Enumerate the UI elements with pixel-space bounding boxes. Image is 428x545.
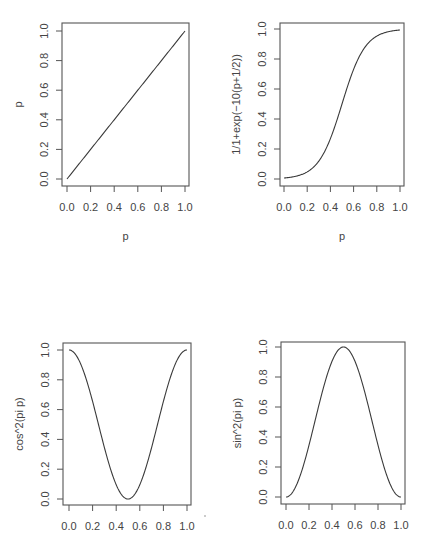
y-tick-label: 1.0: [256, 21, 268, 36]
plot-cos-squared: 0.00.20.40.60.81.00.00.20.40.60.81.0cos^…: [13, 342, 195, 532]
x-tick-label: 0.2: [85, 520, 100, 532]
x-tick-label: 0.8: [369, 201, 384, 213]
x-axis-title: p: [339, 230, 345, 242]
x-tick-label: 1.0: [393, 519, 408, 531]
plot-identity: 0.00.20.40.60.81.00.00.20.40.60.81.0pp: [12, 23, 193, 242]
data-line: [67, 31, 185, 179]
stray-dot: [204, 515, 206, 517]
y-tick-label: 0.6: [38, 83, 50, 98]
x-tick-label: 0.8: [156, 520, 171, 532]
x-tick-label: 0.8: [154, 201, 169, 213]
x-tick-label: 0.4: [109, 520, 124, 532]
x-tick-label: 0.6: [130, 201, 145, 213]
x-tick-label: 0.2: [83, 201, 98, 213]
y-tick-label: 0.8: [257, 369, 269, 384]
x-tick-label: 0.0: [59, 201, 74, 213]
y-tick-label: 0.6: [257, 399, 269, 414]
plot-logistic: 0.00.20.40.60.81.00.00.20.40.60.81.01/1+…: [230, 21, 408, 242]
y-tick-label: 1.0: [257, 339, 269, 354]
data-line: [284, 30, 400, 178]
x-tick-label: 0.4: [324, 519, 339, 531]
y-tick-label: 0.4: [256, 111, 268, 126]
y-tick-label: 1.0: [38, 23, 50, 38]
y-tick-label: 0.0: [256, 171, 268, 186]
y-tick-label: 0.2: [39, 462, 51, 477]
y-tick-label: 0.4: [257, 429, 269, 444]
y-tick-label: 0.2: [38, 142, 50, 157]
y-tick-label: 0.0: [257, 489, 269, 504]
x-tick-label: 0.2: [300, 201, 315, 213]
y-axis-title: cos^2(pi p): [13, 397, 25, 450]
plot-frame: [281, 342, 405, 504]
x-tick-label: 0.2: [301, 519, 316, 531]
x-tick-label: 1.0: [392, 201, 407, 213]
y-tick-label: 0.6: [39, 402, 51, 417]
y-tick-label: 0.0: [38, 171, 50, 186]
y-tick-label: 0.4: [39, 432, 51, 447]
x-tick-label: 0.0: [278, 519, 293, 531]
y-axis-title: 1/1+exp(−10(p+1/2)): [230, 54, 242, 155]
y-tick-label: 0.6: [256, 81, 268, 96]
x-tick-label: 0.6: [346, 201, 361, 213]
x-axis-title: p: [122, 230, 128, 242]
data-line: [286, 347, 401, 497]
x-tick-label: 1.0: [177, 201, 192, 213]
x-tick-label: 0.6: [347, 519, 362, 531]
x-tick-label: 0.4: [107, 201, 122, 213]
x-tick-label: 1.0: [179, 520, 194, 532]
x-tick-label: 0.8: [370, 519, 385, 531]
x-tick-label: 0.6: [132, 520, 147, 532]
figure-canvas: 0.00.20.40.60.81.00.00.20.40.60.81.0pp 0…: [0, 0, 428, 545]
plot-sin-squared: 0.00.20.40.60.81.00.00.20.40.60.81.0sin^…: [231, 339, 409, 531]
y-tick-label: 0.8: [39, 372, 51, 387]
y-tick-label: 0.2: [256, 141, 268, 156]
y-tick-label: 1.0: [39, 342, 51, 357]
x-tick-label: 0.4: [323, 201, 338, 213]
y-tick-label: 0.8: [256, 51, 268, 66]
data-line: [69, 350, 187, 499]
y-tick-label: 0.2: [257, 459, 269, 474]
x-tick-label: 0.0: [276, 201, 291, 213]
y-tick-label: 0.8: [38, 53, 50, 68]
y-axis-title: sin^2(pi p): [231, 398, 243, 448]
x-tick-label: 0.0: [61, 520, 76, 532]
y-axis-title: p: [12, 101, 24, 107]
y-tick-label: 0.0: [39, 491, 51, 506]
y-tick-label: 0.4: [38, 112, 50, 127]
